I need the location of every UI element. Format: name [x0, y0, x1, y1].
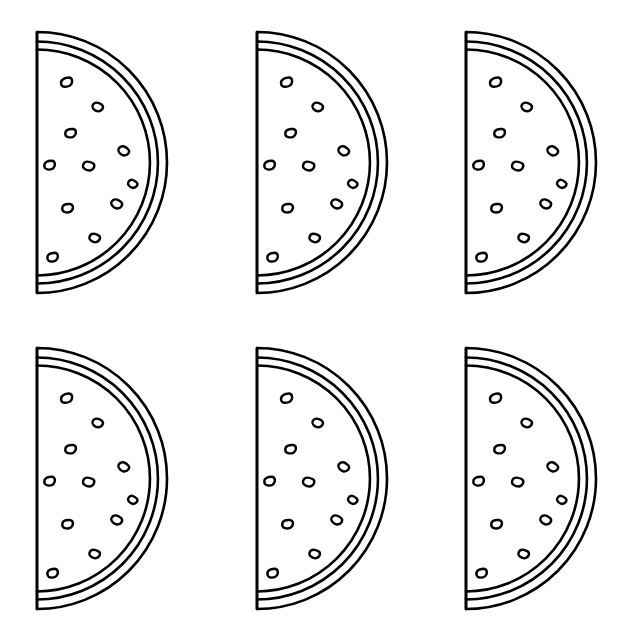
seed [65, 444, 77, 454]
seed [263, 476, 275, 487]
seed [491, 519, 503, 528]
seed [491, 203, 503, 212]
seed [494, 444, 506, 454]
seed [43, 476, 55, 487]
seed [285, 128, 297, 138]
seed [285, 444, 297, 454]
seed [282, 519, 294, 528]
seed [65, 128, 77, 138]
seed [282, 203, 294, 212]
seed [263, 160, 275, 171]
watermelon-slices-artwork [0, 0, 628, 642]
seed [472, 160, 484, 171]
seed [494, 128, 506, 138]
seed [62, 203, 74, 212]
seed [472, 476, 484, 487]
seed [43, 160, 55, 171]
coloring-page-canvas [0, 0, 628, 642]
seed [62, 519, 74, 528]
